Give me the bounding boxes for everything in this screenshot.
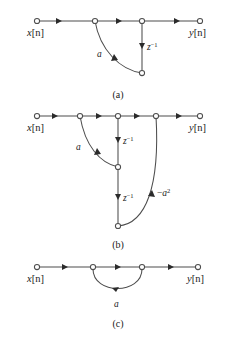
flowgraph-canvas: x[n] y[n] a z−1 (a) — [0, 0, 236, 338]
edge-c-feedback-loop — [93, 269, 142, 289]
label-b-output: y[n] — [188, 122, 206, 133]
node-a-input — [34, 18, 39, 23]
label-a-delay: z−1 — [146, 41, 158, 53]
label-a-gain: a — [97, 49, 102, 59]
panel-c: x[n] y[n] a (c) — [26, 264, 204, 330]
caption-c: (c) — [112, 318, 123, 330]
node-b-sum3 — [153, 113, 158, 118]
arrowhead-b-delay1 — [115, 137, 121, 143]
label-b-delay-2: z−1 — [122, 192, 134, 204]
node-b-sum2 — [115, 113, 120, 118]
node-c-sum — [90, 264, 95, 269]
label-a-output: y[n] — [188, 27, 206, 38]
edge-b-feedback-neg-a2 — [118, 116, 157, 226]
node-b-input — [34, 113, 39, 118]
signal-flow-graph-figure: x[n] y[n] a z−1 (a) — [0, 0, 236, 338]
node-a-output — [197, 18, 202, 23]
arrowhead-b-feedback-a — [94, 148, 101, 155]
label-b-gain-a: a — [76, 142, 81, 152]
arrowhead-b-delay2 — [115, 194, 121, 200]
arrowhead-b-2 — [96, 113, 102, 119]
label-c-input: x[n] — [26, 273, 44, 284]
arrowhead-b-3 — [134, 113, 140, 119]
label-a-input: x[n] — [26, 27, 44, 38]
label-b-delay-1: z−1 — [122, 135, 134, 147]
arrowhead-a-feedback — [111, 54, 118, 61]
label-c-gain: a — [114, 299, 119, 309]
node-c-branch — [139, 264, 144, 269]
label-b-input: x[n] — [26, 122, 44, 133]
arrowhead-a-2 — [116, 18, 122, 24]
panel-b: x[n] y[n] a −a2 z−1 z−1 (b) — [26, 113, 206, 251]
arrowhead-b-feedback-neg-a2 — [148, 190, 155, 197]
node-c-input — [34, 264, 39, 269]
node-a-branch — [139, 18, 144, 23]
arrowhead-c-1 — [62, 264, 68, 270]
edge-b-feedback-a — [80, 116, 118, 167]
arrowhead-b-4 — [176, 113, 182, 119]
arrowhead-a-1 — [56, 18, 62, 24]
caption-b: (b) — [112, 239, 124, 251]
label-b-gain-neg-a-squared: −a2 — [157, 187, 170, 199]
node-a-sum — [92, 18, 97, 23]
node-a-delay-output — [139, 70, 144, 75]
arrowhead-c-3 — [168, 264, 174, 270]
panel-a: x[n] y[n] a z−1 (a) — [26, 18, 206, 101]
arrowhead-c-2 — [115, 264, 121, 270]
node-b-delay2-output — [115, 223, 120, 228]
caption-a: (a) — [112, 89, 123, 101]
node-b-sum1 — [77, 113, 82, 118]
arrowhead-b-1 — [52, 113, 58, 119]
node-b-delay1-output — [115, 164, 120, 169]
arrowhead-a-3 — [174, 18, 180, 24]
node-b-output — [197, 113, 202, 118]
node-c-output — [195, 264, 200, 269]
arrowhead-a-delay — [139, 43, 145, 49]
label-c-output: y[n] — [186, 273, 204, 284]
edge-a-feedback-curve — [95, 21, 142, 73]
